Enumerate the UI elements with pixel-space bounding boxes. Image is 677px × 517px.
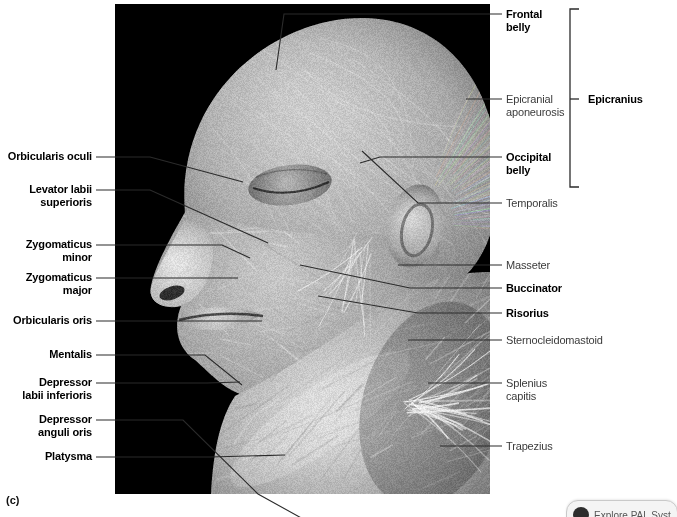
label-depressor-labii-inferioris: Depressor labii inferioris bbox=[22, 376, 92, 402]
label-mentalis: Mentalis bbox=[49, 348, 92, 361]
panel-letter: (c) bbox=[6, 494, 19, 506]
label-epicranial-aponeurosis: Epicranial aponeurosis bbox=[506, 93, 564, 119]
label-depressor-anguli-oris: Depressor anguli oris bbox=[38, 413, 92, 439]
widget-circle-icon bbox=[573, 507, 589, 517]
label-zygomaticus-minor: Zygomaticus minor bbox=[26, 238, 92, 264]
label-occipital-belly: Occipital belly bbox=[506, 151, 551, 177]
widget-label: Explore PAL Systems bbox=[594, 510, 671, 517]
label-zygomaticus-major: Zygomaticus major bbox=[26, 271, 92, 297]
label-sternocleidomastoid: Sternocleidomastoid bbox=[506, 334, 603, 347]
label-trapezius: Trapezius bbox=[506, 440, 553, 453]
label-temporalis: Temporalis bbox=[506, 197, 558, 210]
bottom-floating-widget[interactable]: Explore PAL Systems bbox=[566, 500, 677, 517]
label-platysma: Platysma bbox=[45, 450, 92, 463]
label-levator-labii-superioris: Levator labii superioris bbox=[29, 183, 92, 209]
label-buccinator: Buccinator bbox=[506, 282, 562, 295]
epicranius-bracket bbox=[570, 9, 579, 187]
label-risorius: Risorius bbox=[506, 307, 549, 320]
dissection-photograph-canvas bbox=[115, 4, 490, 494]
dissection-photograph bbox=[115, 4, 490, 494]
label-orbicularis-oris: Orbicularis oris bbox=[13, 314, 92, 327]
bracket-label-epicranius: Epicranius bbox=[588, 93, 643, 106]
label-frontal-belly: Frontal belly bbox=[506, 8, 542, 34]
label-splenius-capitis: Splenius capitis bbox=[506, 377, 547, 403]
figure-page: Orbicularis oculiLevator labii superiori… bbox=[0, 0, 677, 517]
label-orbicularis-oculi: Orbicularis oculi bbox=[8, 150, 92, 163]
label-masseter: Masseter bbox=[506, 259, 550, 272]
